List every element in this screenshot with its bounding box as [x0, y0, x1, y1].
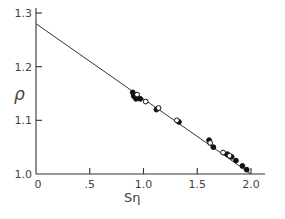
filled-point [240, 164, 245, 169]
open-point [227, 153, 232, 158]
open-point [135, 92, 140, 97]
axes [36, 8, 265, 174]
y-tick-label: 1.0 [15, 168, 33, 181]
regression-line [36, 24, 251, 174]
open-point [156, 106, 161, 111]
open-point [208, 140, 213, 145]
open-point [174, 118, 179, 123]
filled-point [234, 158, 239, 163]
open-point [221, 150, 226, 155]
y-tick-label: 1.2 [15, 61, 33, 74]
x-tick-label: 2.0 [242, 178, 260, 191]
open-point [143, 99, 148, 104]
x-tick-label: .5 [85, 178, 96, 191]
fit-line [36, 24, 251, 174]
filled-point [138, 96, 143, 101]
x-axis-label: Sη [124, 190, 141, 205]
x-tick-label: 0 [35, 178, 42, 191]
y-tick-label: 1.3 [15, 7, 33, 20]
filled-point [211, 145, 216, 150]
y-tick-label: 1.1 [15, 114, 33, 127]
x-ticks: 0.51.01.52.0 [35, 168, 260, 191]
y-axis-label: ρ [14, 84, 25, 104]
filled-point [244, 167, 249, 172]
x-tick-label: 1.5 [189, 178, 207, 191]
scatter-chart: 1.01.11.21.3 0.51.01.52.0 ρ Sη [0, 0, 285, 219]
